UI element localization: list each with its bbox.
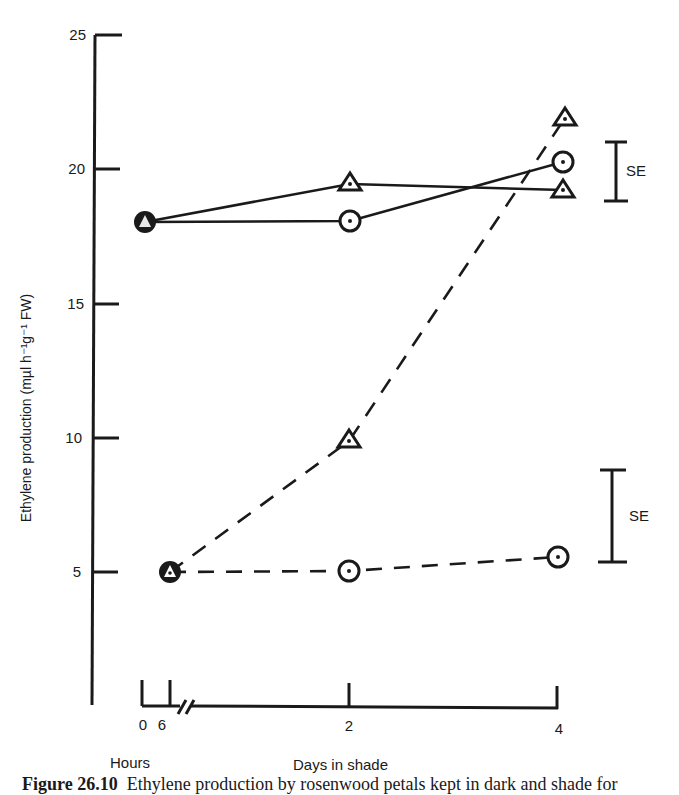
figure-caption: Figure 26.10 Ethylene production by rose… xyxy=(22,774,618,795)
x-tick-0h: 0 xyxy=(133,716,153,733)
dashed-series-lines xyxy=(170,118,565,572)
se-bar-lower xyxy=(598,470,627,562)
x-tick-2d: 2 xyxy=(339,717,359,734)
se-label-lower: SE xyxy=(629,507,649,524)
start-marker-0h xyxy=(134,211,156,233)
start-marker-6h xyxy=(159,561,181,583)
y-axis-title: Ethylene production (mµl h⁻¹g⁻¹ FW) xyxy=(18,258,34,558)
triangle-marker-dashed-day2 xyxy=(338,430,360,447)
y-tick-25: 25 xyxy=(46,26,86,43)
se-label-upper: SE xyxy=(626,162,646,179)
y-tick-20: 20 xyxy=(45,160,85,177)
caption-figure-number: Figure 26.10 xyxy=(22,774,118,794)
circle-marker-dashed-day2 xyxy=(339,561,359,581)
y-axis xyxy=(92,35,122,705)
se-bar-upper xyxy=(604,142,628,201)
y-tick-10: 10 xyxy=(42,429,82,446)
x-axis-title-hours: Hours xyxy=(110,754,150,771)
y-tick-15: 15 xyxy=(44,295,84,312)
triangle-marker-dashed-day4 xyxy=(554,108,576,125)
circle-marker-solid-day2 xyxy=(340,211,360,231)
x-tick-6h: 6 xyxy=(152,716,172,733)
x-axis xyxy=(142,680,558,714)
x-axis-title-days: Days in shade xyxy=(293,756,388,773)
x-tick-4d: 4 xyxy=(549,720,569,737)
caption-text: Ethylene production by rosenwood petals … xyxy=(127,774,618,794)
y-tick-5: 5 xyxy=(41,563,81,580)
triangle-marker-solid-day2 xyxy=(339,173,361,190)
circle-marker-dashed-day4 xyxy=(548,547,568,567)
circle-marker-solid-day4 xyxy=(553,152,573,172)
